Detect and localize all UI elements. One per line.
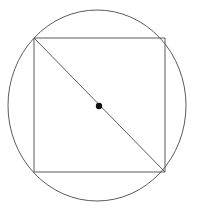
center-point-dot [96, 103, 102, 109]
geometry-diagram-figure [0, 0, 199, 213]
diagram-canvas [0, 0, 199, 213]
